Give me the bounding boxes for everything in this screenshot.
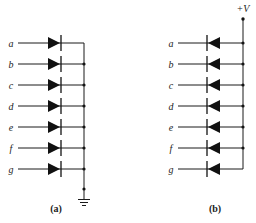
diode-row-c: c: [169, 77, 245, 93]
panel-a: abcdefg: [9, 35, 91, 206]
input-label: c: [169, 80, 174, 91]
diode-matrix-figure: abcdefg abcdefg (a) (b) +V: [0, 0, 256, 223]
input-label: c: [9, 80, 14, 91]
diode-icon: [208, 121, 220, 133]
diode-icon: [48, 58, 60, 70]
caption-b: (b): [209, 203, 221, 215]
diode-icon: [48, 100, 60, 112]
input-label: b: [9, 59, 14, 70]
caption-a: (a): [50, 203, 62, 215]
input-label: e: [169, 122, 174, 133]
diode-row-b: b: [9, 56, 86, 72]
diode-icon: [48, 37, 60, 49]
input-label: d: [169, 101, 175, 112]
diode-row-d: d: [9, 98, 86, 114]
input-label: f: [170, 143, 174, 154]
input-label: a: [9, 38, 14, 49]
input-label: g: [169, 164, 174, 175]
ground-icon: [78, 200, 90, 206]
supply-label: +V: [237, 3, 252, 14]
diode-row-e: e: [169, 119, 245, 135]
diode-icon: [48, 163, 60, 175]
diode-row-a: a: [169, 35, 245, 51]
diode-row-e: e: [9, 119, 86, 135]
panel-b: abcdefg: [169, 17, 245, 177]
diode-row-g: g: [169, 161, 244, 177]
terminal-dot: [82, 187, 85, 190]
supply-terminal-dot: [241, 17, 244, 20]
diode-icon: [208, 100, 220, 112]
input-label: g: [9, 164, 14, 175]
diode-icon: [208, 79, 220, 91]
diode-icon: [208, 163, 220, 175]
diode-row-d: d: [169, 98, 245, 114]
input-label: f: [10, 143, 14, 154]
input-label: b: [169, 59, 174, 70]
input-label: d: [9, 101, 15, 112]
diode-row-a: a: [9, 35, 85, 51]
diode-icon: [208, 142, 220, 154]
diode-row-c: c: [9, 77, 86, 93]
diode-icon: [48, 142, 60, 154]
input-label: e: [9, 122, 14, 133]
diode-row-g: g: [9, 161, 86, 177]
diode-row-f: f: [170, 140, 245, 156]
diode-row-b: b: [169, 56, 245, 72]
diode-icon: [48, 79, 60, 91]
diode-row-f: f: [10, 140, 86, 156]
diode-icon: [208, 58, 220, 70]
diode-icon: [208, 37, 220, 49]
input-label: a: [169, 38, 174, 49]
diode-icon: [48, 121, 60, 133]
